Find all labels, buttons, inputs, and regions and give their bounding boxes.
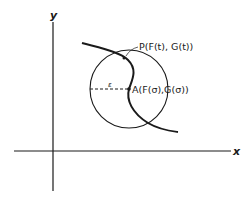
point-p-label: P(F(t), G(t)) xyxy=(139,41,193,52)
point-a xyxy=(127,87,131,91)
point-p xyxy=(123,57,126,60)
y-axis-label: y xyxy=(50,9,58,22)
point-p-leader xyxy=(126,47,138,56)
point-a-label: A(F(σ),G(σ)) xyxy=(132,84,189,95)
epsilon-label: ε xyxy=(108,81,112,89)
diagram-canvas: y x ε A(F(σ),G(σ)) P(F(t), G(t)) xyxy=(0,0,249,200)
x-axis-label: x xyxy=(232,145,241,158)
